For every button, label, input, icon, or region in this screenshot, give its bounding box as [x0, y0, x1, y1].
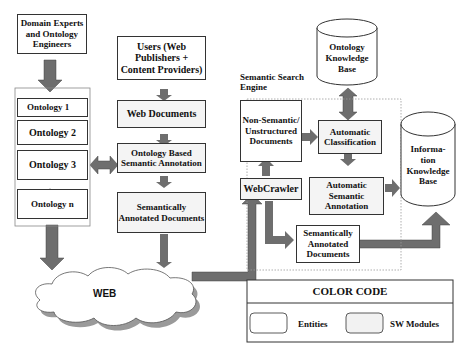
arrow-nonsemantic-to-classification	[302, 129, 318, 145]
arrow-experts-to-ontologies	[38, 60, 62, 92]
arrow-webcrawler-to-annotated	[265, 201, 294, 249]
legend-module-swatch	[346, 313, 383, 333]
web-label: WEB	[93, 288, 116, 300]
ontology-2-box: Ontology 2	[17, 120, 88, 145]
legend-entities-label: Entities	[298, 319, 328, 329]
legend-sw-modules-label: SW Modules	[390, 319, 439, 329]
ontology-3-box: Ontology 3	[17, 150, 88, 180]
semantically-annotated-docs-left-box: Semantically Annotated Documents	[117, 192, 206, 233]
ontology-kb-cylinder: Ontology Knowledge Base	[316, 18, 378, 86]
automatic-classification-box: Automatic Classification	[318, 120, 382, 154]
ontology-annotation-box: Ontology Based Semantic Annotation	[117, 143, 206, 173]
arrow-docs-to-web	[156, 234, 172, 268]
ontology-kb-label: Ontology Knowledge Base	[316, 42, 378, 74]
domain-experts-box: Domain Experts and Ontology Engineers	[17, 14, 87, 54]
arrow-ontologykb-classification-bidirectional	[339, 88, 357, 120]
web-documents-box: Web Documents	[117, 100, 206, 128]
arrow-classification-to-annotation	[340, 153, 356, 166]
webcrawler-box: WebCrawler	[240, 178, 302, 200]
search-engine-label: Semantic Search Engine	[240, 72, 320, 93]
users-box: Users (Web Publishers + Content Provider…	[117, 36, 206, 80]
ontology-1-box: Ontology 1	[17, 98, 88, 117]
information-kb-cylinder: Informa-tion Knowledge Base	[400, 110, 456, 208]
automatic-semantic-annotation-box: Automatic Semantic Annotation	[309, 177, 384, 215]
arrow-ontologies-to-web	[40, 225, 64, 270]
arrow-annotation-to-docs	[156, 176, 172, 188]
semantically-annotated-docs-right-box: Semantically Annotated Documents	[296, 225, 360, 263]
arrow-annotation-to-infokb	[385, 179, 400, 197]
ontology-n-box: Ontology n	[17, 189, 88, 219]
legend-entity-swatch	[250, 313, 287, 333]
information-kb-label: Informa-tion Knowledge Base	[400, 144, 456, 187]
arrow-ontology-annotation-bidirectional	[90, 156, 118, 174]
non-semantic-docs-box: Non-Semantic/ Unstructured Documents	[240, 100, 302, 162]
legend-title: COLOR CODE	[247, 285, 453, 298]
